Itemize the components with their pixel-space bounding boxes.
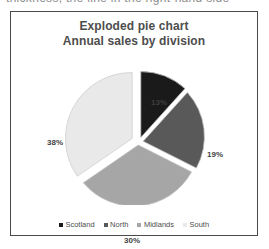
legend-swatch-scotland <box>59 223 63 227</box>
chart-title-line-1: Exploded pie chart <box>79 19 188 33</box>
pie-label-north: 19% <box>207 150 223 159</box>
legend-swatch-north <box>104 223 108 227</box>
legend-label-north: North <box>110 220 128 229</box>
pie-label-south: 38% <box>47 138 63 147</box>
chart-frame: Exploded pie chart Annual sales by divis… <box>10 11 258 236</box>
clipped-page-text: thickness, the line in the right-hand si… <box>0 0 269 9</box>
chart-title-line-2: Annual sales by division <box>11 34 257 49</box>
chart-title: Exploded pie chart Annual sales by divis… <box>11 19 257 48</box>
legend-label-south: South <box>189 220 209 229</box>
chart-legend: Scotland North Midlands South <box>11 220 257 229</box>
clipped-text: thickness, the line in the right-hand si… <box>6 0 229 5</box>
legend-item-south[interactable]: South <box>183 220 209 229</box>
pie-chart-svg <box>11 50 257 205</box>
pie-label-scotland: 13% <box>151 98 167 107</box>
legend-swatch-south <box>183 223 187 227</box>
legend-swatch-midlands <box>137 223 141 227</box>
legend-label-scotland: Scotland <box>65 220 94 229</box>
legend-item-midlands[interactable]: Midlands <box>137 220 174 229</box>
legend-label-midlands: Midlands <box>144 220 174 229</box>
pie-plot-area: 13% 19% 30% 38% <box>11 50 257 205</box>
pie-label-midlands: 30% <box>124 236 140 245</box>
legend-item-scotland[interactable]: Scotland <box>59 220 95 229</box>
legend-item-north[interactable]: North <box>104 220 129 229</box>
